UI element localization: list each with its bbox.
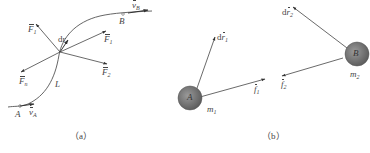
dr2-arrow — [293, 7, 347, 48]
dr1-arrow — [196, 37, 215, 91]
label-f1-right: F1 — [104, 35, 113, 45]
label-f2: f2 — [281, 80, 287, 90]
label-velocity-b: vB — [132, 1, 140, 11]
label-f2: F2 — [102, 68, 111, 78]
label-mass-2: m2 — [350, 70, 360, 80]
force-fn-arrow — [21, 52, 60, 72]
label-point-a: A — [15, 110, 21, 119]
force-f2-arrow — [60, 52, 107, 64]
label-dr1: dr1 — [217, 33, 228, 43]
force-f1-upper-arrow — [36, 24, 60, 52]
diagram-canvas — [0, 0, 370, 153]
caption-b: （b） — [262, 129, 285, 142]
label-fn: Fn — [19, 77, 28, 87]
label-velocity-a: vA — [29, 108, 37, 118]
label-dr2: dr2 — [282, 8, 293, 18]
label-curve-l: L — [55, 80, 60, 89]
panel-b — [178, 7, 369, 110]
label-point-b: B — [119, 17, 125, 26]
label-f1: f1 — [254, 85, 260, 95]
label-mass-1: m1 — [207, 105, 217, 115]
caption-a: （a） — [70, 129, 92, 142]
label-dr: dr — [58, 35, 66, 44]
label-sphere-a: A — [187, 93, 193, 102]
f2-arrow — [282, 58, 343, 76]
label-sphere-b: B — [353, 49, 359, 58]
label-f1-upper: F1 — [28, 25, 37, 35]
